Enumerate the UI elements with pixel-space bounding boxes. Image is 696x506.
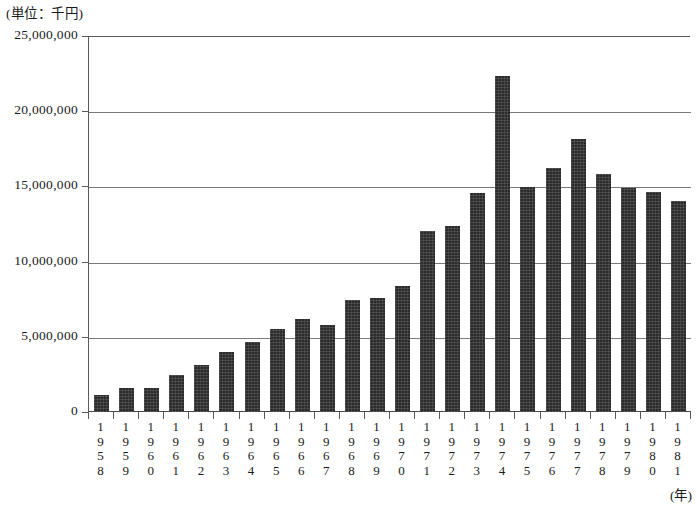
year-digit: 6 [140,449,162,464]
year-digit: 9 [115,435,137,450]
year-digit: 1 [666,420,688,435]
year-digit: 9 [391,435,413,450]
year-digit: 1 [666,464,688,479]
year-digit: 7 [566,449,588,464]
year-digit: 1 [115,420,137,435]
year-digit: 1 [441,420,463,435]
year-digit: 6 [340,449,362,464]
year-digit: 9 [416,435,438,450]
year-digit: 1 [290,420,312,435]
bar [671,201,686,412]
year-digit: 1 [190,420,212,435]
bar [295,319,310,412]
year-digit: 9 [441,435,463,450]
year-digit: 9 [115,464,137,479]
x-axis-title: (年) [670,484,692,504]
unit-caption: (単位：千円) [6,2,84,22]
bar [94,395,109,412]
year-digit: 4 [491,464,513,479]
year-digit: 1 [566,420,588,435]
year-digit: 9 [215,435,237,450]
year-digit: 1 [591,420,613,435]
bar [546,168,561,412]
year-digit: 6 [290,449,312,464]
year-digit: 1 [416,464,438,479]
year-digit: 9 [516,435,538,450]
bar [470,193,485,412]
year-digit: 8 [641,449,663,464]
x-axis-tick-mark [289,412,290,419]
y-axis-tick-label: 20,000,000 [0,102,78,118]
bar [520,187,535,412]
year-digit: 3 [215,464,237,479]
year-digit: 1 [491,420,513,435]
year-digit: 7 [566,464,588,479]
x-axis-tick-mark [690,412,691,419]
year-digit: 5 [115,449,137,464]
year-digit: 0 [391,464,413,479]
bar [194,365,209,412]
x-axis-tick-mark [239,412,240,419]
x-axis-tick-mark [389,412,390,419]
year-digit: 1 [90,420,112,435]
x-axis-year-label: 1970 [391,420,413,478]
x-axis-year-label: 1980 [641,420,663,478]
x-axis-year-label: 1976 [541,420,563,478]
year-digit: 8 [90,464,112,479]
year-digit: 9 [566,435,588,450]
x-axis-year-label: 1963 [215,420,237,478]
year-digit: 6 [165,449,187,464]
year-digit: 9 [240,435,262,450]
x-axis-year-label: 1965 [265,420,287,478]
x-axis-tick-mark [88,412,89,419]
year-digit: 1 [240,420,262,435]
x-axis-year-label: 1974 [491,420,513,478]
year-digit: 9 [365,435,387,450]
bar [270,329,285,412]
year-digit: 9 [90,435,112,450]
bar [646,192,661,412]
year-digit: 6 [190,449,212,464]
year-digit: 9 [165,435,187,450]
x-axis-year-label: 1966 [290,420,312,478]
x-axis-tick-mark [464,412,465,419]
year-digit: 5 [516,464,538,479]
year-digit: 7 [416,449,438,464]
year-digit: 9 [265,435,287,450]
x-axis-tick-mark [640,412,641,419]
year-digit: 9 [616,464,638,479]
bar [621,188,636,412]
bar [245,342,260,412]
x-axis-year-label: 1978 [591,420,613,478]
year-digit: 6 [541,464,563,479]
year-digit: 1 [416,420,438,435]
year-digit: 7 [516,449,538,464]
year-digit: 6 [315,449,337,464]
x-axis-year-label: 1960 [140,420,162,478]
x-axis-year-label: 1977 [566,420,588,478]
x-axis-year-label: 1968 [340,420,362,478]
x-axis-year-label: 1967 [315,420,337,478]
x-axis-tick-mark [113,412,114,419]
year-digit: 1 [516,420,538,435]
year-digit: 2 [441,464,463,479]
bar [495,76,510,412]
year-digit: 9 [365,464,387,479]
year-digit: 6 [265,449,287,464]
bar [445,226,460,412]
year-digit: 1 [391,420,413,435]
year-digit: 0 [140,464,162,479]
x-axis-tick-mark [514,412,515,419]
x-axis-tick-mark [540,412,541,419]
x-axis-year-label: 1964 [240,420,262,478]
year-digit: 9 [616,435,638,450]
year-digit: 5 [90,449,112,464]
year-digit: 6 [240,449,262,464]
x-axis-tick-mark [314,412,315,419]
year-digit: 9 [541,435,563,450]
year-digit: 7 [315,464,337,479]
year-digit: 9 [140,435,162,450]
bar [320,325,335,412]
x-axis-tick-mark [590,412,591,419]
bar [370,298,385,412]
